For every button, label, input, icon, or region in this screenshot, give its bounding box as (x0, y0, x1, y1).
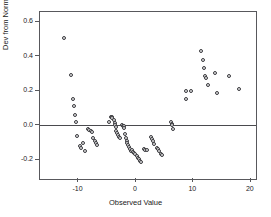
x-tick-label: -10 (72, 185, 82, 192)
x-tick-label: 0 (133, 185, 137, 192)
x-tick-label: 20 (246, 185, 254, 192)
x-tick-label: 10 (188, 185, 196, 192)
x-tick-mark (250, 178, 251, 182)
x-tick-mark (192, 178, 193, 182)
x-axis-title: Observed Value (0, 199, 271, 207)
x-axis-tick-labels: -1001020 (0, 0, 271, 217)
x-tick-mark (135, 178, 136, 182)
scatter-plot-figure: Dev from Normal 0.60.40.20.0-0.2 -100102… (0, 0, 271, 217)
x-tick-mark (77, 178, 78, 182)
